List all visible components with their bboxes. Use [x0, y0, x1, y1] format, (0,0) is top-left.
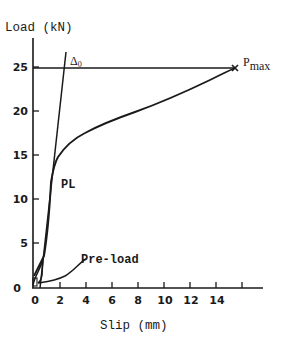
y-tick-5: 5	[20, 237, 28, 250]
pmax-label: Pmax	[243, 55, 270, 73]
y-tick-20: 20	[13, 105, 29, 118]
pl-label: PL	[61, 178, 75, 192]
x-tick-8: 8	[134, 294, 142, 307]
y-tick-25: 25	[13, 61, 28, 74]
x-tick-0: 0	[31, 294, 39, 307]
x-tick-12: 12	[183, 294, 198, 307]
y-tick-15: 15	[13, 149, 28, 162]
x-tick-2: 2	[56, 294, 64, 307]
y-tick-0: 0	[13, 282, 21, 295]
x-tick-14: 14	[209, 294, 225, 307]
x-axis-title: Slip (mm)	[100, 319, 168, 333]
x-tick-labels: 0 2 4 6 8 10 12 14	[31, 294, 225, 307]
y-tick-10: 10	[13, 193, 29, 206]
svg-text:Δ0: Δ0	[70, 54, 82, 69]
pmax-label-sub: max	[250, 59, 271, 73]
delta0-label-sub: 0	[78, 60, 82, 69]
x-ticks	[60, 282, 242, 288]
svg-text:Pmax: Pmax	[243, 55, 270, 73]
x-tick-10: 10	[157, 294, 173, 307]
y-tick-labels: 0 5 10 15 20 25	[13, 61, 29, 295]
y-axis-title: Load (kN)	[5, 21, 73, 35]
delta0-label: Δ0	[70, 54, 82, 69]
x-tick-6: 6	[108, 294, 116, 307]
axes	[32, 38, 263, 288]
load-slip-curve	[34, 68, 235, 276]
x-tick-4: 4	[82, 294, 90, 307]
load-slip-chart: 0 5 10 15 20 25 0 2 4 6 8 10 12 14 Load …	[0, 0, 286, 344]
preload-label: Pre-load	[81, 253, 139, 267]
y-ticks	[33, 67, 39, 243]
